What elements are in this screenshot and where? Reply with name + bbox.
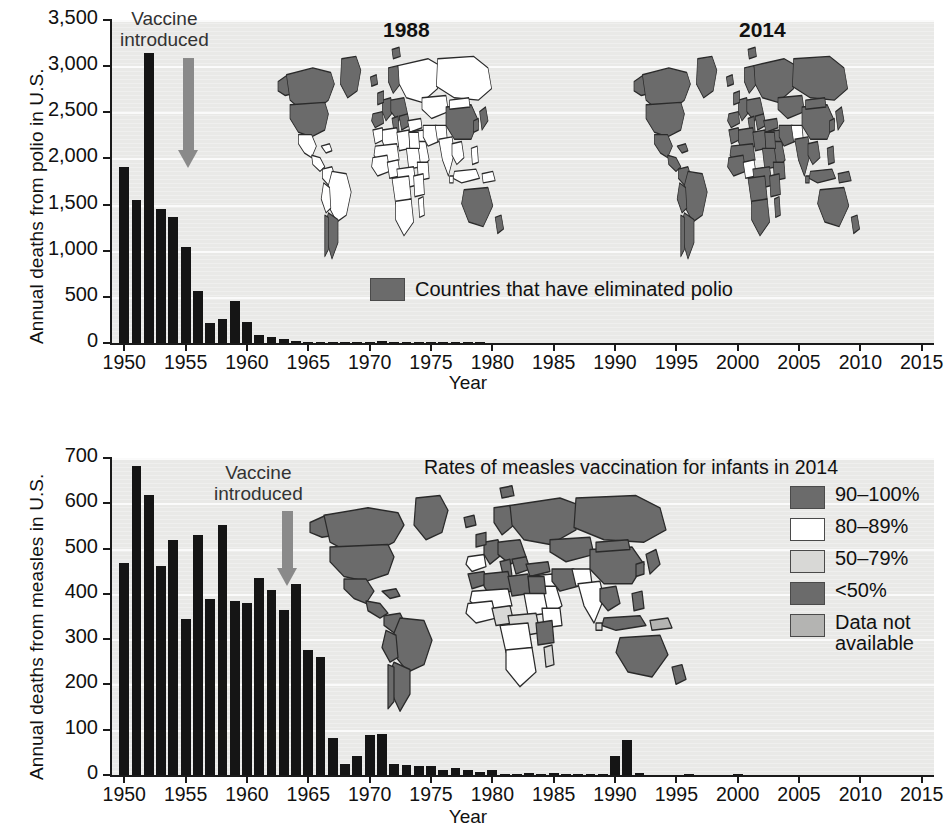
map-country-philippines <box>827 146 834 164</box>
measles-legend-item: <50% <box>790 580 920 605</box>
y-tick <box>103 457 112 459</box>
y-tick-label: 500 <box>65 535 98 558</box>
x-tick <box>859 776 861 783</box>
x-tick-label: 2000 <box>708 783 768 806</box>
bar <box>193 291 203 343</box>
map-country-india <box>795 137 811 176</box>
x-tick <box>737 344 739 351</box>
x-tick <box>123 776 125 783</box>
polio-vaccine-annotation: Vaccine introduced <box>120 8 209 51</box>
map-country-iberia <box>728 112 740 128</box>
map-country-australia <box>462 188 493 227</box>
map-country-korea <box>474 119 479 133</box>
bar <box>193 535 203 775</box>
x-tick <box>430 776 432 783</box>
polio-world-map-2014 <box>628 38 868 268</box>
map-country-svalbard <box>500 486 514 498</box>
bar <box>132 200 142 343</box>
map-country-indonesia <box>809 169 835 183</box>
y-tick <box>103 157 112 159</box>
measles-world-map-2014 <box>300 476 700 721</box>
measles-y-axis-title: Annual deaths from measles in U.S. <box>26 474 48 781</box>
map-country-safrica <box>396 199 414 236</box>
map-country-eafrica <box>770 174 781 197</box>
map-country-eafrica <box>414 174 425 197</box>
map-country-kazakh <box>550 537 594 562</box>
x-tick <box>675 776 677 783</box>
map-country-korea <box>830 119 835 133</box>
map-country-seasia <box>452 142 464 165</box>
map-country-philippines <box>471 146 478 164</box>
measles-legend-label: Data not available <box>835 612 914 654</box>
measles-x-axis-line <box>110 775 934 777</box>
x-tick-label: 1985 <box>524 351 584 374</box>
polio-figure: Annual deaths from polio in U.S. Year Va… <box>0 0 936 400</box>
measles-legend-item: 50–79% <box>790 548 920 573</box>
y-tick <box>103 19 112 21</box>
map-country-libya <box>397 130 410 151</box>
map-country-nz <box>495 215 503 233</box>
map-country-wafrica <box>728 155 746 176</box>
map-country-wafrica <box>466 601 496 623</box>
bar <box>230 601 240 775</box>
y-tick-label: 200 <box>65 670 98 693</box>
bar <box>328 738 338 775</box>
polio-x-axis-line <box>110 343 934 345</box>
x-tick <box>921 776 923 783</box>
world-map-svg <box>272 38 512 268</box>
x-tick <box>798 776 800 783</box>
x-tick <box>798 344 800 351</box>
x-tick <box>185 344 187 351</box>
map-country-philippines <box>632 591 644 611</box>
bar <box>254 335 264 343</box>
x-tick <box>369 344 371 351</box>
map-country-mexico <box>344 579 374 604</box>
y-tick-label: 0 <box>87 329 98 352</box>
bar <box>254 578 264 775</box>
map-country-japan <box>646 550 660 575</box>
map-country-india_sl <box>806 176 810 183</box>
map-country-caribbean <box>677 144 688 153</box>
x-tick-label: 1990 <box>585 783 645 806</box>
y-tick <box>103 296 112 298</box>
y-tick-label: 100 <box>65 716 98 739</box>
map-country-mexico <box>654 135 672 158</box>
map-country-madagascar <box>774 197 780 218</box>
x-tick-label: 2010 <box>830 783 890 806</box>
world-map-svg <box>300 476 700 721</box>
map-country-indonesia <box>602 616 646 631</box>
x-tick <box>491 344 493 351</box>
map-country-mongolia <box>806 98 826 110</box>
x-tick <box>430 344 432 351</box>
polio-world-map-1988 <box>272 38 512 268</box>
map-country-russia_w <box>398 59 440 103</box>
x-tick <box>307 776 309 783</box>
bar <box>267 590 277 775</box>
y-tick-label: 300 <box>65 625 98 648</box>
map-country-indonesia <box>453 169 479 183</box>
map-country-chile <box>325 215 329 256</box>
x-tick-label: 1995 <box>646 351 706 374</box>
bar <box>242 603 252 775</box>
map-country-peru <box>321 183 331 213</box>
y-tick-label: 0 <box>87 761 98 784</box>
measles-legend-label: 80–89% <box>835 516 908 537</box>
y-tick <box>103 593 112 595</box>
bar <box>144 53 154 343</box>
map-country-kazakh <box>778 96 804 119</box>
map-country-uk <box>378 91 384 105</box>
map-country-greenland <box>696 56 716 97</box>
y-tick-label: 2,500 <box>48 98 98 121</box>
measles-vaccine-arrow-icon <box>282 511 293 586</box>
map-country-madagascar <box>418 197 424 218</box>
measles-legend-swatch <box>790 486 825 509</box>
y-tick <box>103 502 112 504</box>
x-tick <box>553 344 555 351</box>
y-tick <box>103 729 112 731</box>
map-country-mongolia <box>596 540 630 552</box>
measles-legend-swatch <box>790 550 825 573</box>
x-tick <box>246 344 248 351</box>
map-country-iceland <box>726 75 733 87</box>
measles-x-axis-title: Year <box>0 806 936 828</box>
measles-legend-label: <50% <box>835 580 887 601</box>
